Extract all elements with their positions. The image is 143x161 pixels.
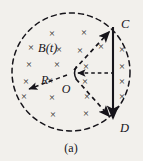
field-mark: × [119, 91, 125, 102]
field-marks-group: × × × × × × × × × × × × × × × × × × × × … [21, 27, 125, 120]
field-mark: × [54, 59, 60, 70]
label-point-d: D [119, 121, 129, 135]
field-mark: × [82, 76, 88, 87]
field-mark: × [49, 28, 55, 39]
field-mark: × [83, 61, 89, 72]
figure-container: × × × × × × × × × × × × × × × × × × × × … [0, 0, 143, 161]
field-mark: × [119, 44, 125, 55]
figure-caption: (a) [64, 141, 77, 155]
field-circle-diagram: × × × × × × × × × × × × × × × × × × × × … [0, 0, 143, 161]
field-mark: × [77, 45, 83, 56]
field-mark: × [119, 76, 125, 87]
field-mark: × [81, 27, 87, 38]
field-mark: × [98, 41, 104, 52]
label-radius-r: R [40, 73, 49, 87]
field-mark: × [119, 61, 125, 72]
field-mark: × [50, 109, 56, 120]
radius-vector-od [76, 79, 109, 116]
field-mark: × [83, 108, 89, 119]
field-mark: × [26, 59, 32, 70]
field-mark: × [23, 76, 29, 87]
field-mark: × [28, 42, 34, 53]
label-point-c: C [121, 17, 130, 31]
label-center-o: O [62, 82, 71, 96]
field-mark: × [49, 92, 55, 103]
label-field-b: B(t) [38, 41, 57, 55]
field-mark: × [21, 91, 27, 102]
angle-arc [75, 67, 77, 80]
